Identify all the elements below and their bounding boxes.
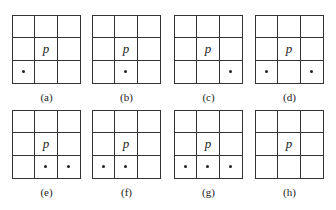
grid-cell xyxy=(175,111,197,133)
grid-cell: p xyxy=(197,38,219,60)
grid-cell xyxy=(138,111,160,133)
grid-cell xyxy=(138,61,160,83)
marked-dot-icon xyxy=(44,165,47,168)
center-pixel-label: p xyxy=(205,136,212,152)
neighborhood-grid: p xyxy=(92,15,161,84)
grid-cell xyxy=(301,156,323,178)
grid-cell xyxy=(93,61,115,83)
grid-cell xyxy=(220,133,242,155)
panel-caption: (b) xyxy=(92,91,161,103)
center-pixel-label: p xyxy=(123,136,130,152)
grid-cell xyxy=(301,16,323,38)
grid-cell: p xyxy=(278,38,300,60)
grid-cell xyxy=(256,38,278,60)
panel-caption: (g) xyxy=(174,186,243,198)
grid-cell xyxy=(256,111,278,133)
neighborhood-grid: p xyxy=(12,110,81,179)
grid-cell xyxy=(13,38,35,60)
grid-cell xyxy=(220,38,242,60)
center-pixel-label: p xyxy=(205,41,212,57)
neighborhood-grid: p xyxy=(174,15,243,84)
grid-cell xyxy=(115,61,137,83)
grid-cell xyxy=(35,16,57,38)
grid-cell xyxy=(256,16,278,38)
grid-cell xyxy=(58,38,80,60)
grid-cell xyxy=(301,38,323,60)
grid-cell xyxy=(58,156,80,178)
grid-cell xyxy=(301,61,323,83)
center-pixel-label: p xyxy=(123,41,130,57)
panel-caption: (e) xyxy=(12,186,81,198)
grid-cell xyxy=(256,133,278,155)
grid-cell xyxy=(58,111,80,133)
grid-cell xyxy=(278,61,300,83)
marked-dot-icon xyxy=(22,70,25,73)
grid-cell: p xyxy=(115,133,137,155)
center-pixel-label: p xyxy=(286,136,293,152)
grid-cell xyxy=(220,156,242,178)
grid-cell xyxy=(93,156,115,178)
grid-cell: p xyxy=(197,133,219,155)
grid-cell xyxy=(93,111,115,133)
grid-cell xyxy=(115,16,137,38)
grid-cell xyxy=(115,156,137,178)
grid-cell xyxy=(175,133,197,155)
grid-cell xyxy=(197,111,219,133)
center-pixel-label: p xyxy=(43,41,50,57)
grid-cell xyxy=(220,111,242,133)
marked-dot-icon xyxy=(229,70,232,73)
panel-caption: (d) xyxy=(255,91,324,103)
grid-cell xyxy=(13,133,35,155)
grid-cell xyxy=(301,133,323,155)
marked-dot-icon xyxy=(310,70,313,73)
marked-dot-icon xyxy=(124,70,127,73)
grid-cell xyxy=(220,61,242,83)
neighborhood-grid: p xyxy=(174,110,243,179)
grid-cell xyxy=(13,111,35,133)
neighborhood-grid: p xyxy=(255,15,324,84)
grid-cell xyxy=(256,61,278,83)
grid-cell xyxy=(138,133,160,155)
grid-cell xyxy=(58,61,80,83)
grid-cell xyxy=(58,133,80,155)
marked-dot-icon xyxy=(184,165,187,168)
grid-cell: p xyxy=(35,133,57,155)
grid-cell xyxy=(35,61,57,83)
grid-cell xyxy=(138,156,160,178)
grid-cell: p xyxy=(115,38,137,60)
grid-cell xyxy=(256,156,278,178)
grid-cell xyxy=(175,61,197,83)
panel-caption: (c) xyxy=(174,91,243,103)
grid-cell xyxy=(278,16,300,38)
grid-cell xyxy=(93,16,115,38)
grid-cell xyxy=(138,16,160,38)
grid-cell xyxy=(278,111,300,133)
grid-cell xyxy=(197,16,219,38)
grid-cell xyxy=(13,61,35,83)
grid-cell xyxy=(197,156,219,178)
grid-cell xyxy=(175,16,197,38)
grid-cell xyxy=(138,38,160,60)
grid-cell xyxy=(301,111,323,133)
marked-dot-icon xyxy=(124,165,127,168)
grid-cell xyxy=(175,38,197,60)
marked-dot-icon xyxy=(229,165,232,168)
marked-dot-icon xyxy=(206,165,209,168)
grid-cell xyxy=(58,16,80,38)
grid-cell: p xyxy=(278,133,300,155)
panel-caption: (h) xyxy=(255,186,324,198)
grid-cell: p xyxy=(35,38,57,60)
grid-cell xyxy=(93,38,115,60)
grid-cell xyxy=(278,156,300,178)
grid-cell xyxy=(220,16,242,38)
grid-cell xyxy=(93,133,115,155)
marked-dot-icon xyxy=(102,165,105,168)
grid-cell xyxy=(13,16,35,38)
marked-dot-icon xyxy=(265,70,268,73)
panel-caption: (f) xyxy=(92,186,161,198)
grid-cell xyxy=(115,111,137,133)
center-pixel-label: p xyxy=(43,136,50,152)
panel-caption: (a) xyxy=(12,91,81,103)
center-pixel-label: p xyxy=(286,41,293,57)
neighborhood-grid: p xyxy=(92,110,161,179)
